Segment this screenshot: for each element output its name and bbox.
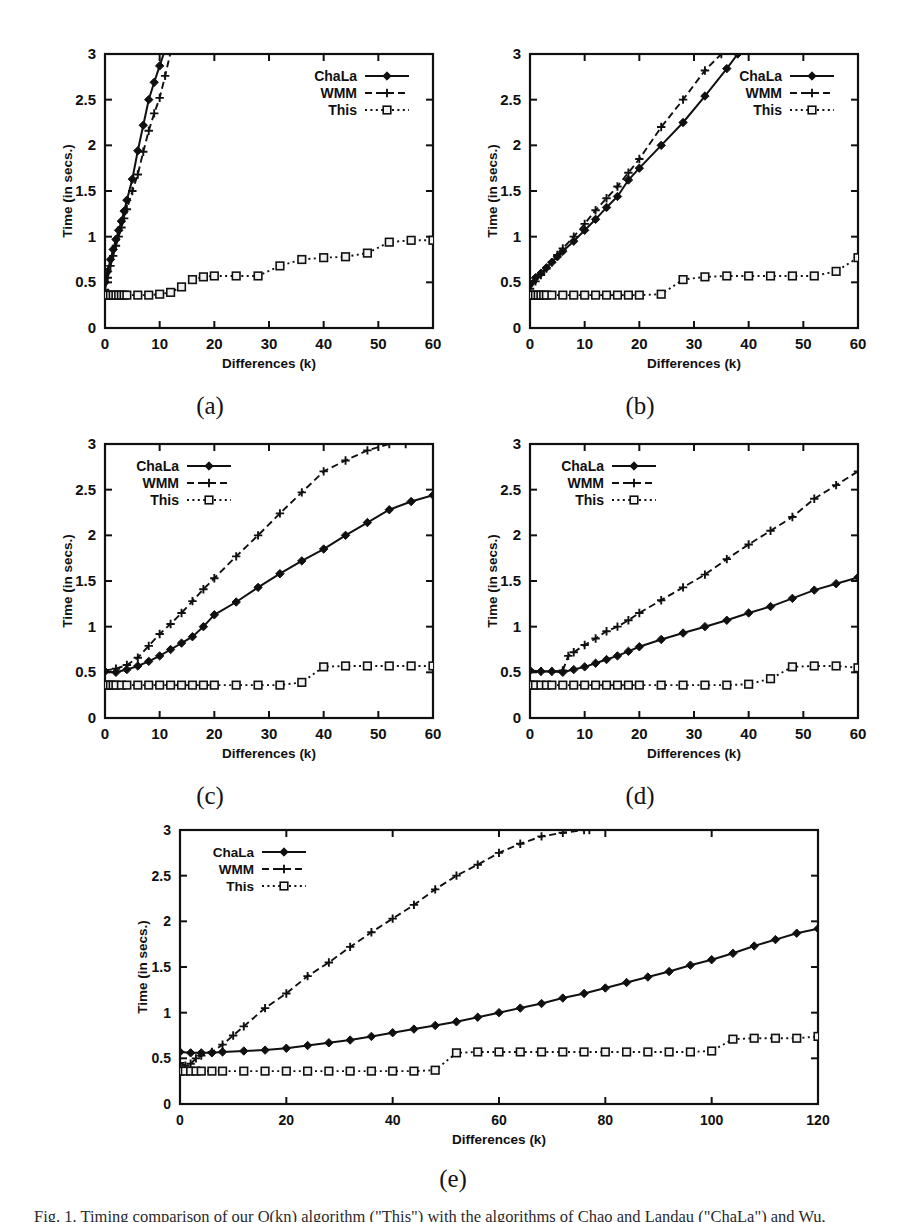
x-tick-label: 10 [576,725,593,742]
x-tick-label: 40 [385,1112,401,1128]
x-tick-label: 10 [151,335,168,352]
y-tick-label: 0 [513,709,521,726]
y-tick-label: 1.5 [75,182,96,199]
legend-label: WMM [219,862,254,877]
x-tick-label: 40 [315,335,332,352]
series-this [101,237,437,299]
chart-legend: ChaLaWMMThis [561,458,656,508]
y-tick-label: 2.5 [75,481,96,498]
series-this [526,254,862,299]
series-this [176,1033,822,1075]
x-axis-title: Differences (k) [222,356,316,371]
x-tick-label: 20 [279,1112,295,1128]
y-axis-title: Time (in secs.) [485,534,500,628]
x-tick-label: 40 [315,725,332,742]
x-tick-label: 30 [261,335,278,352]
x-tick-label: 60 [491,1112,507,1128]
chart-b: 00.511.522.530102030405060Differences (k… [485,42,870,390]
y-tick-label: 2 [513,136,521,153]
legend-label: This [150,492,179,508]
subplot-label-a: (a) [180,392,240,420]
x-tick-label: 50 [370,725,387,742]
y-tick-label: 3 [513,435,521,452]
chart-a: 00.511.522.530102030405060Differences (k… [60,42,445,390]
x-tick-label: 20 [631,725,648,742]
x-tick-label: 10 [576,335,593,352]
x-tick-label: 60 [425,335,442,352]
legend-label: ChaLa [739,68,782,84]
series-this [101,662,437,689]
x-tick-label: 20 [206,335,223,352]
x-tick-label: 20 [631,335,648,352]
x-axis-title: Differences (k) [452,1132,546,1147]
y-tick-label: 2 [163,913,171,929]
chart-panel-b: 00.511.522.530102030405060Differences (k… [485,42,870,390]
legend-label: This [575,492,604,508]
y-tick-label: 2.5 [75,91,96,108]
x-tick-label: 80 [598,1112,614,1128]
x-tick-label: 50 [370,335,387,352]
chart-panel-e: 00.511.522.53020406080100120Differences … [130,818,830,1166]
x-axis-title: Differences (k) [222,746,316,761]
chart-legend: ChaLaWMMThis [136,458,231,508]
chart-panel-c: 00.511.522.530102030405060Differences (k… [60,432,445,780]
x-tick-label: 60 [850,725,867,742]
x-axis-title: Differences (k) [647,356,741,371]
y-tick-label: 1 [88,228,96,245]
chart-panel-a: 00.511.522.530102030405060Differences (k… [60,42,445,390]
y-tick-label: 0.5 [500,273,521,290]
x-tick-label: 60 [850,335,867,352]
chart-legend: ChaLaWMMThis [314,68,409,118]
x-tick-label: 40 [740,335,757,352]
y-tick-label: 1 [513,618,521,635]
legend-label: WMM [567,475,604,491]
y-tick-label: 3 [513,45,521,62]
y-tick-label: 0 [88,319,96,336]
chart-legend: ChaLaWMMThis [739,68,834,118]
series-chala [176,924,822,1057]
y-tick-label: 0.5 [75,273,96,290]
x-tick-label: 50 [795,725,812,742]
chart-legend: ChaLaWMMThis [213,845,306,894]
legend-label: ChaLa [213,845,255,860]
y-axis-title: Time (in secs.) [60,534,75,628]
legend-label: WMM [142,475,179,491]
x-tick-label: 100 [700,1112,724,1128]
y-tick-label: 0.5 [152,1050,172,1066]
y-tick-label: 2.5 [500,91,521,108]
subplot-label-e: (e) [423,1165,483,1193]
legend-label: ChaLa [561,458,604,474]
legend-label: ChaLa [314,68,357,84]
y-tick-label: 2 [88,136,96,153]
y-tick-label: 2 [88,526,96,543]
chart-e: 00.511.522.53020406080100120Differences … [130,818,830,1166]
x-tick-label: 20 [206,725,223,742]
y-tick-label: 1 [513,228,521,245]
x-tick-label: 120 [806,1112,830,1128]
legend-label: This [226,879,254,894]
y-tick-label: 3 [163,822,171,838]
x-tick-label: 0 [101,335,109,352]
series-chala [526,573,862,676]
figure-root: 00.511.522.530102030405060Differences (k… [0,0,909,1222]
legend-label: This [753,102,782,118]
x-tick-label: 30 [686,725,703,742]
y-tick-label: 1.5 [500,572,521,589]
chart-d: 00.511.522.530102030405060Differences (k… [485,432,870,780]
x-tick-label: 0 [176,1112,184,1128]
y-tick-label: 1.5 [152,959,172,975]
x-tick-label: 0 [526,725,534,742]
x-tick-label: 40 [740,725,757,742]
series-this [526,662,862,689]
y-tick-label: 2.5 [152,868,172,884]
subplot-label-c: (c) [180,782,240,810]
legend-label: WMM [745,85,782,101]
figure-caption: Fig. 1. Timing comparison of our O(kn) a… [34,1205,880,1222]
y-tick-label: 1 [88,618,96,635]
y-tick-label: 1.5 [500,182,521,199]
x-tick-label: 10 [151,725,168,742]
x-tick-label: 30 [686,335,703,352]
x-tick-label: 50 [795,335,812,352]
legend-label: This [328,102,357,118]
subplot-label-b: (b) [610,392,670,420]
